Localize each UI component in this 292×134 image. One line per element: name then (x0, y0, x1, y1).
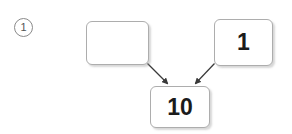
addend-right-box[interactable]: 1 (214, 19, 273, 66)
problem-number-marker: 1 (14, 18, 33, 37)
worksheet-canvas: 1 1 10 (0, 0, 292, 134)
addend-right-value: 1 (237, 29, 250, 56)
sum-value: 10 (167, 94, 193, 121)
arrow-left-to-sum-icon (148, 64, 168, 84)
problem-number-label: 1 (20, 22, 26, 33)
arrow-right-to-sum-icon (196, 64, 215, 84)
addend-left-box[interactable] (86, 21, 149, 65)
sum-box[interactable]: 10 (150, 86, 210, 128)
